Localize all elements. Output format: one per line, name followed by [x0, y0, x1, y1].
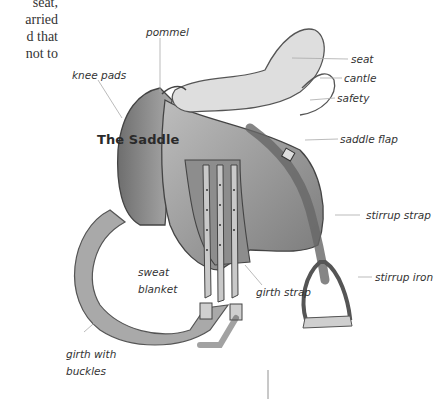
label-pommel: pommel — [146, 26, 189, 39]
label-saddle-flap: saddle flap — [340, 133, 398, 146]
label-cantle: cantle — [344, 72, 376, 85]
label-stirrup-strap: stirrup strap — [366, 209, 431, 222]
figure-title: The Saddle — [97, 132, 180, 147]
label-knee-pads: knee pads — [72, 69, 126, 82]
label-seat: seat — [351, 53, 373, 66]
label-girth-with-buckles: girth with buckles — [66, 348, 116, 378]
label-girth-strap: girth strap — [256, 286, 311, 299]
label-stirrup-iron: stirrup iron — [375, 271, 433, 284]
label-safety: safety — [337, 92, 369, 105]
saddle-illustration — [0, 0, 445, 399]
label-sweat-blanket-line2: blanket — [138, 283, 177, 296]
label-sweat-blanket: sweat blanket — [138, 266, 177, 296]
label-girth-line2: buckles — [66, 365, 116, 378]
label-sweat-blanket-line1: sweat — [138, 266, 177, 279]
label-girth-line1: girth with — [66, 348, 116, 361]
